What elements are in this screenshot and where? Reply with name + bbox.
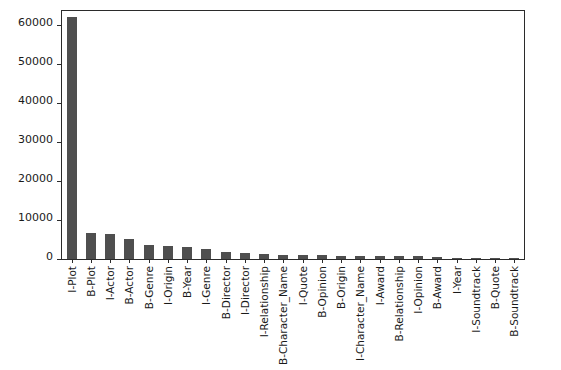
y-axis-tick-label: 40000 xyxy=(18,95,53,106)
bar-slot xyxy=(509,11,519,259)
bar-slot xyxy=(240,11,250,259)
x-axis: I-PlotB-PlotI-ActorB-ActorB-GenreI-Origi… xyxy=(62,259,524,370)
y-axis-tick-label: 50000 xyxy=(18,56,53,67)
bar-slot xyxy=(471,11,481,259)
x-axis-tick-label-text: B-Soundtrack xyxy=(509,266,520,337)
x-axis-tick-mark xyxy=(110,259,111,263)
x-axis-tick-label-text: I-Year xyxy=(452,266,463,294)
x-axis-tick-mark xyxy=(514,259,515,263)
bar-slot xyxy=(144,11,154,259)
x-axis-tick-mark xyxy=(245,259,246,263)
x-axis-tick-mark xyxy=(283,259,284,263)
bar xyxy=(105,234,115,259)
x-axis-tick-mark xyxy=(206,259,207,263)
x-axis-tick-label-text: B-Award xyxy=(432,266,443,309)
x-axis-tick-label-text: B-Actor xyxy=(124,266,135,304)
x-axis-tick-label-text: B-Quote xyxy=(490,266,501,309)
x-axis-tick-mark xyxy=(149,259,150,263)
x-axis-tick-label-text: I-Relationship xyxy=(259,266,270,337)
x-axis-tick-mark xyxy=(72,259,73,263)
bar-slot xyxy=(124,11,134,259)
x-axis-tick-label-text: B-Relationship xyxy=(394,266,405,341)
bar-slot xyxy=(317,11,327,259)
y-axis-tick-mark xyxy=(57,142,61,143)
bar xyxy=(144,245,154,259)
bar-slot xyxy=(413,11,423,259)
x-axis-tick-mark xyxy=(226,259,227,263)
x-axis-tick-label-text: I-Award xyxy=(375,266,386,305)
x-axis-tick-label-text: I-Character_Name xyxy=(355,266,366,361)
x-axis-tick-mark xyxy=(380,259,381,263)
bar-slot xyxy=(182,11,192,259)
x-axis-tick-mark xyxy=(457,259,458,263)
y-axis-tick-mark xyxy=(57,259,61,260)
x-axis-tick-label-text: I-Quote xyxy=(298,266,309,305)
bar-slot xyxy=(355,11,365,259)
x-axis-tick-mark xyxy=(437,259,438,263)
x-axis-tick-label-text: I-Actor xyxy=(105,266,116,300)
bar xyxy=(86,233,96,259)
x-axis-tick-label-text: I-Genre xyxy=(201,266,212,305)
x-axis-tick-label-text: I-Soundtrack xyxy=(471,266,482,333)
x-axis-tick-mark xyxy=(418,259,419,263)
x-axis-tick-mark xyxy=(187,259,188,263)
bar-slot xyxy=(201,11,211,259)
bar-series xyxy=(62,11,524,259)
bar-slot xyxy=(298,11,308,259)
x-axis-tick-label-text: I-Origin xyxy=(163,266,174,305)
y-axis-tick-label: 10000 xyxy=(18,212,53,223)
y-axis-tick-label: 20000 xyxy=(18,173,53,184)
x-axis-tick-mark xyxy=(264,259,265,263)
x-axis-tick-mark xyxy=(399,259,400,263)
bar-slot xyxy=(67,11,77,259)
x-axis-tick-mark xyxy=(129,259,130,263)
bar xyxy=(221,252,231,259)
bar-slot xyxy=(221,11,231,259)
x-axis-tick-label-text: I-Opinion xyxy=(413,266,424,314)
x-axis-tick-mark xyxy=(495,259,496,263)
bar xyxy=(124,239,134,259)
x-axis-tick-mark xyxy=(91,259,92,263)
y-axis-tick-label: 0 xyxy=(46,251,53,262)
x-axis-tick-label-text: I-Plot xyxy=(67,266,78,293)
x-axis-tick-label-text: B-Director xyxy=(221,266,232,319)
bar-slot xyxy=(336,11,346,259)
bar-slot xyxy=(86,11,96,259)
y-axis: 0100002000030000400005000060000 xyxy=(0,10,61,260)
x-axis-tick-mark xyxy=(303,259,304,263)
bar xyxy=(67,17,77,259)
x-axis-tick-label-text: I-Director xyxy=(240,266,251,315)
y-axis-tick-label: 30000 xyxy=(18,134,53,145)
bar xyxy=(182,247,192,259)
bar-slot xyxy=(452,11,462,259)
x-axis-tick-mark xyxy=(168,259,169,263)
x-axis-tick-label-text: B-Character_Name xyxy=(278,266,289,365)
x-axis-tick-mark xyxy=(322,259,323,263)
x-axis-tick-mark xyxy=(360,259,361,263)
bar-slot xyxy=(432,11,442,259)
y-axis-tick-mark xyxy=(57,25,61,26)
y-axis-tick-label: 60000 xyxy=(18,17,53,28)
x-axis-tick-label-text: B-Plot xyxy=(86,266,97,297)
y-axis-tick-mark xyxy=(57,220,61,221)
x-axis-tick-label-text: B-Origin xyxy=(336,266,347,309)
bar-slot xyxy=(105,11,115,259)
x-axis-tick-label-text: B-Genre xyxy=(144,266,155,309)
bar-slot xyxy=(394,11,404,259)
bar-chart-figure: 0100002000030000400005000060000 I-PlotB-… xyxy=(0,0,561,370)
bar xyxy=(163,246,173,259)
x-axis-tick-mark xyxy=(476,259,477,263)
y-axis-tick-mark xyxy=(57,103,61,104)
x-axis-tick-mark xyxy=(341,259,342,263)
bar-slot xyxy=(490,11,500,259)
bar-slot xyxy=(163,11,173,259)
bar-slot xyxy=(375,11,385,259)
bar xyxy=(201,249,211,259)
bar-slot xyxy=(278,11,288,259)
y-axis-tick-mark xyxy=(57,181,61,182)
x-axis-tick-label-text: B-Opinion xyxy=(317,266,328,318)
bar-slot xyxy=(259,11,269,259)
x-axis-tick-label-text: B-Year xyxy=(182,266,193,298)
y-axis-tick-mark xyxy=(57,64,61,65)
